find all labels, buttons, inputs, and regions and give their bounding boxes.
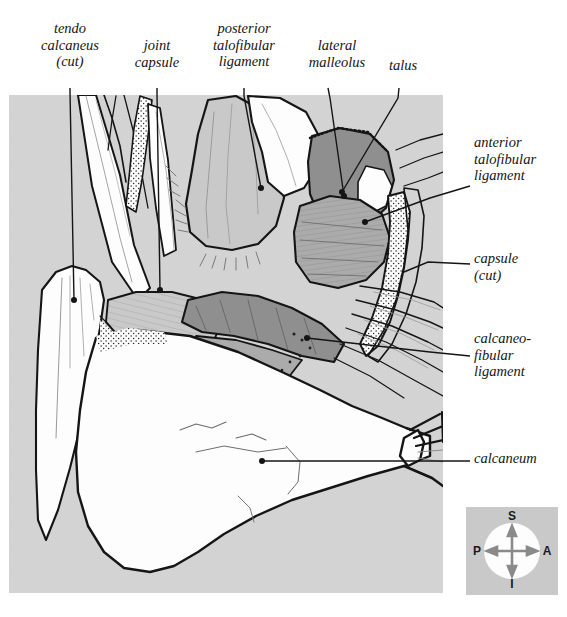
compass-label-posterior: P: [470, 544, 484, 558]
label-anterior-talofibular-ligament: anterior talofibular ligament: [474, 134, 566, 184]
label-lateral-malleolus: lateral malleolus: [296, 37, 378, 70]
compass-label-superior: S: [504, 509, 520, 523]
compass-label-inferior: I: [504, 577, 520, 591]
orientation-compass: S I P A: [466, 507, 558, 595]
label-calcaneo-fibular-ligament: calcaneo- fibular ligament: [474, 330, 567, 380]
label-tendo-calcaneus: tendo calcaneus (cut): [24, 20, 116, 70]
label-calcaneum: calcaneum: [474, 450, 567, 467]
label-capsule-cut: capsule (cut): [474, 250, 566, 283]
label-joint-capsule: joint capsule: [122, 37, 192, 70]
label-posterior-talofibular-ligament: posterior talofibular ligament: [196, 20, 292, 70]
compass-label-anterior: A: [540, 544, 554, 558]
label-talus: talus: [376, 57, 430, 74]
